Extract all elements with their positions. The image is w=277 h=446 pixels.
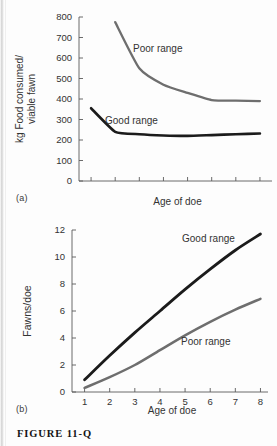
panel-a-ytick-label: 200: [56, 134, 72, 145]
panel-a-x-axis-label: Age of doe: [153, 196, 202, 207]
panel-b-xtick-label: 1: [82, 396, 87, 407]
panel-a-ytick-label: 0: [67, 175, 72, 186]
panel-a-y-axis-label-line2: viable fawn: [26, 74, 37, 124]
panel-a-ytick-label: 700: [56, 32, 72, 43]
panel-b-ytick-label: 8: [60, 278, 65, 289]
panel-b-x-axis-label: Age of doe: [148, 405, 197, 416]
chart-panel-a: 0100200300400500600700800Poor rangeGood …: [0, 0, 277, 215]
chart-b-canvas: 02468101212345678Good rangePoor rangeAge…: [0, 213, 277, 418]
panel-b-label: (b): [16, 404, 28, 414]
panel-a-ytick-label: 600: [56, 52, 72, 63]
panel-b-ytick-label: 6: [60, 305, 65, 316]
panel-b-ytick-label: 0: [60, 386, 65, 397]
panel-a-poor-range-annotation: Poor range: [133, 43, 183, 54]
panel-b-poor-range-annotation: Poor range: [181, 336, 231, 347]
panel-b-ytick-label: 10: [54, 251, 65, 262]
panel-b-xtick-label: 2: [107, 396, 112, 407]
panel-b-xtick-label: 8: [258, 396, 263, 407]
panel-a-ytick-label: 500: [56, 73, 72, 84]
panel-a-ytick-label: 800: [56, 11, 72, 22]
panel-b-xtick-label: 3: [132, 396, 137, 407]
panel-a-ytick-label: 300: [56, 114, 72, 125]
panel-a-ytick-label: 100: [56, 155, 72, 166]
panel-b-good-range-annotation: Good range: [182, 233, 235, 244]
panel-b-ytick-label: 12: [54, 224, 65, 235]
panel-b-y-axis-label: Fawns/doe: [21, 285, 33, 337]
chart-a-canvas: 0100200300400500600700800Poor rangeGood …: [0, 0, 277, 215]
panel-b-xtick-label: 7: [233, 396, 238, 407]
panel-b-series-poor-range: [85, 299, 261, 388]
panel-a-label: (a): [16, 193, 28, 203]
panel-b-ytick-label: 4: [60, 332, 65, 343]
panel-a-y-axis-label-line1: kg Food consumed/: [14, 55, 25, 143]
panel-a-good-range-annotation: Good range: [105, 115, 158, 126]
chart-panel-b: 02468101212345678Good rangePoor rangeAge…: [0, 213, 277, 418]
figure-caption: FIGURE 11-Q: [17, 428, 92, 439]
panel-a-ytick-label: 400: [56, 93, 72, 104]
panel-b-xtick-label: 6: [208, 396, 213, 407]
panel-b-series-good-range: [85, 234, 261, 380]
figure-page: 0100200300400500600700800Poor rangeGood …: [0, 0, 277, 446]
panel-a-series-poor-range: [115, 22, 260, 101]
panel-b-ytick-label: 2: [60, 359, 65, 370]
